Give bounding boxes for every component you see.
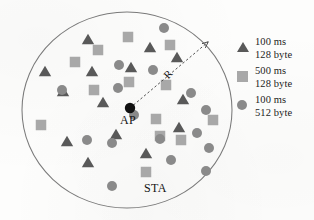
station-marker <box>155 134 165 144</box>
station-marker <box>107 138 117 148</box>
station-marker <box>161 80 172 91</box>
station-marker <box>86 66 98 77</box>
legend-item-circle: 100 ms 512 byte <box>236 94 314 120</box>
station-marker <box>36 120 47 131</box>
station-marker <box>201 166 211 176</box>
legend-triangle-line2: 128 byte <box>255 49 292 62</box>
station-marker <box>114 60 124 70</box>
station-marker <box>89 85 100 96</box>
series-circle <box>57 23 214 191</box>
station-marker <box>82 135 92 145</box>
legend-item-square-text: 500 ms 128 byte <box>252 65 292 90</box>
legend-circle-line2: 512 byte <box>255 107 292 120</box>
circle-icon <box>236 94 252 120</box>
station-marker <box>192 128 202 138</box>
legend-item-square: 500 ms 128 byte <box>236 65 314 91</box>
legend: 100 ms 128 byte 500 ms 128 byte 100 ms 5… <box>236 36 314 123</box>
station-marker <box>171 52 183 63</box>
station-marker <box>159 23 169 33</box>
legend-circle-line1: 100 ms <box>255 94 292 107</box>
square-icon <box>236 65 252 91</box>
station-marker <box>144 42 156 53</box>
station-marker <box>82 157 94 168</box>
station-marker <box>173 122 185 133</box>
station-marker <box>151 114 162 125</box>
legend-square-line2: 128 byte <box>255 78 292 91</box>
station-marker <box>57 85 67 95</box>
station-marker <box>140 148 152 159</box>
legend-square-line1: 500 ms <box>255 65 292 78</box>
station-marker <box>110 129 122 140</box>
legend-triangle-line1: 100 ms <box>255 36 292 49</box>
station-marker <box>165 40 176 51</box>
legend-item-triangle-text: 100 ms 128 byte <box>252 36 292 61</box>
station-marker <box>61 136 73 147</box>
triangle-icon <box>236 36 252 62</box>
station-marker <box>124 77 135 88</box>
station-marker <box>186 88 196 98</box>
ap-label: AP <box>120 113 136 128</box>
station-marker <box>201 105 211 115</box>
station-marker <box>148 65 158 75</box>
station-marker <box>113 83 123 93</box>
station-marker <box>166 155 176 165</box>
sta-label: STA <box>144 181 167 196</box>
station-marker <box>176 135 187 146</box>
station-marker <box>97 97 109 108</box>
station-marker <box>107 181 117 191</box>
station-marker <box>204 143 214 153</box>
station-marker <box>141 167 152 178</box>
figure-canvas: AP STA R 100 ms 128 byte 500 ms 128 byte <box>0 0 314 220</box>
station-marker <box>39 66 51 77</box>
station-marker <box>70 57 81 68</box>
station-marker <box>82 34 94 45</box>
access-point-dot <box>125 103 135 113</box>
station-marker <box>208 115 219 126</box>
legend-item-triangle: 100 ms 128 byte <box>236 36 314 62</box>
station-marker <box>125 62 137 73</box>
legend-item-circle-text: 100 ms 512 byte <box>252 94 292 119</box>
station-marker <box>93 45 104 56</box>
station-marker <box>123 32 134 43</box>
